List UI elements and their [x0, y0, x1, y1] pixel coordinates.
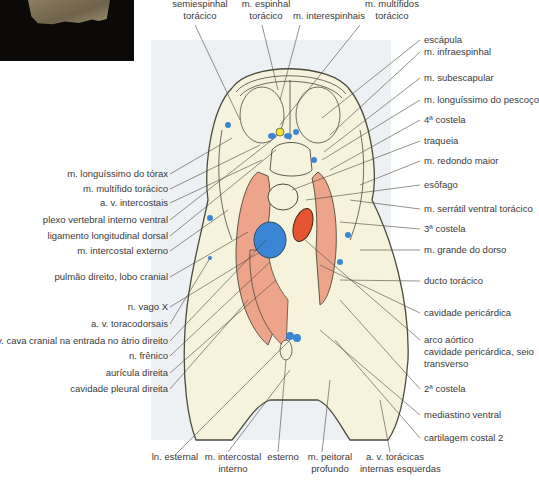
label-left: m. intercostal externo: [77, 245, 168, 257]
label-text: ln. esternal: [145, 451, 205, 463]
label-text: m. peitoral: [300, 451, 360, 463]
label-bottom: m. peitoral profundo: [300, 451, 360, 475]
label-right: m. serrátil ventral torácico: [424, 203, 533, 215]
label-text: a. v. torácicas: [360, 451, 430, 463]
label-interespinhais: m. interespinhais: [284, 10, 374, 22]
spinal-cord: [276, 128, 284, 136]
label-right: ducto torácico: [424, 275, 483, 287]
label-left: n. frênico: [129, 350, 168, 362]
label-left: plexo vertebral interno ventral: [43, 214, 168, 226]
label-right: 4ª costela: [424, 114, 466, 126]
label-text: torácico: [170, 10, 230, 22]
label-left: ligamento longitudinal dorsal: [48, 230, 168, 242]
label-right: m. longuíssimo do pescoço: [424, 94, 539, 106]
label-left: pulmão direito, lobo cranial: [54, 271, 168, 283]
label-right: cavidade pericárdica: [424, 307, 511, 319]
label-text: m. espinhal: [236, 0, 296, 10]
sternum: [280, 340, 292, 360]
label-left: n. vago X: [128, 301, 168, 313]
label-left: a. v. intercostais: [100, 197, 168, 209]
label-right: m. redondo maior: [424, 155, 498, 167]
label-left: m. multífido torácico: [83, 183, 168, 195]
label-left: v. cava cranial na entrada no átrio dire…: [0, 335, 168, 347]
thorax-outline: [184, 69, 408, 440]
label-left: a. v. toracodorsais: [91, 318, 168, 330]
vertebra: [270, 143, 312, 177]
label-bottom: a. v. torácicas internas esquerdas: [360, 451, 430, 475]
label-right: m. subescapular: [424, 72, 494, 84]
label-right: escápula: [424, 34, 462, 46]
label-text: internas esquerdas: [360, 463, 430, 475]
label-right: m. grande do dorso: [424, 244, 506, 256]
label-bottom: ln. esternal: [145, 451, 205, 463]
trachea: [268, 184, 298, 210]
label-left: aurícula direita: [106, 367, 168, 379]
label-right: arco aórtico: [424, 334, 474, 346]
label-multifidos: m. multífidos torácico: [362, 0, 422, 22]
label-right: traqueia: [424, 135, 458, 147]
label-right: 2ª costela: [424, 383, 466, 395]
label-text: m. multífidos: [362, 0, 422, 10]
label-right: transverso: [424, 358, 468, 370]
label-text: m. interespinhais: [284, 10, 374, 22]
label-right: cartilagem costal 2: [424, 432, 503, 444]
label-right: esôfago: [424, 179, 458, 191]
label-text: profundo: [300, 463, 360, 475]
label-left: m. longuíssimo do tórax: [67, 168, 168, 180]
label-semiespinhal: semiespinhal torácico: [170, 0, 230, 22]
label-right: cavidade pericárdica, seio: [424, 346, 534, 358]
label-right: 3ª costela: [424, 223, 466, 235]
label-right: mediastino ventral: [424, 409, 501, 421]
label-text: interno: [198, 463, 268, 475]
label-left: cavidade pleural direita: [70, 383, 168, 395]
label-text: torácico: [362, 10, 422, 22]
label-right: m. infraespinhal: [424, 46, 491, 58]
label-text: semiespinhal: [170, 0, 230, 10]
